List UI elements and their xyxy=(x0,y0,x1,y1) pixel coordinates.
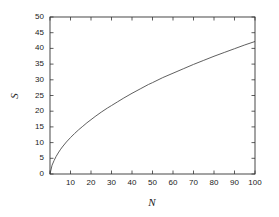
x-tick-label: 90 xyxy=(230,179,239,187)
x-tick-label: 50 xyxy=(148,179,157,187)
y-tick-label: 35 xyxy=(26,60,44,68)
x-tick-label: 60 xyxy=(169,179,178,187)
y-tick-label: 5 xyxy=(26,154,44,162)
y-tick-label: 0 xyxy=(26,170,44,178)
y-tick-label: 45 xyxy=(26,29,44,37)
x-tick-label: 20 xyxy=(87,179,96,187)
figure-container: 05101520253035404550 1020304050607080901… xyxy=(0,0,279,217)
x-tick-label: 70 xyxy=(189,179,198,187)
y-tick-label: 25 xyxy=(26,92,44,100)
y-tick-label: 20 xyxy=(26,107,44,115)
y-tick-label: 40 xyxy=(26,44,44,52)
y-tick-label: 30 xyxy=(26,76,44,84)
x-axis-title: N xyxy=(148,197,155,208)
y-tick-label: 15 xyxy=(26,123,44,131)
x-tick-label: 10 xyxy=(66,179,75,187)
y-tick-label: 50 xyxy=(26,13,44,21)
y-tick-label: 10 xyxy=(26,139,44,147)
x-tick-label: 80 xyxy=(210,179,219,187)
x-tick-label: 100 xyxy=(248,179,261,187)
y-axis-title: S xyxy=(9,93,20,99)
x-tick-label: 40 xyxy=(128,179,137,187)
x-tick-label: 30 xyxy=(107,179,116,187)
